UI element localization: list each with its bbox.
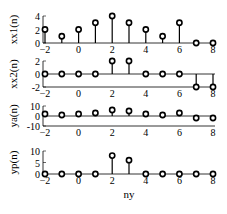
stem-marker [59,112,64,117]
stem-marker [143,71,148,76]
subplot-3: -10010−202468ya(n) [7,101,216,138]
stem-marker [110,58,115,63]
stem-marker [59,171,64,176]
stem-marker [126,158,131,163]
x-tick-label: 0 [76,88,81,99]
y-tick-label: 4 [35,11,40,22]
stem-marker [210,115,215,120]
x-tick-label: 0 [76,44,81,55]
stem-marker [93,110,98,115]
stem-marker [210,84,215,89]
x-tick-label: 6 [177,88,182,99]
stem-marker [194,115,199,120]
x-tick-label: −2 [40,127,51,138]
stem-marker [177,20,182,25]
subplot-2: -202−202468xx2(n) [7,56,216,99]
y-axis-label: xx1(n) [7,15,20,45]
x-tick-label: 2 [110,44,115,55]
stem-marker [160,112,165,117]
y-tick-label: 5 [35,158,40,169]
stem-marker [110,13,115,18]
x-tick-label: 2 [110,175,115,186]
y-tick-label: 2 [35,25,40,36]
stem-marker [210,40,215,45]
y-axis-label: yp(n) [7,150,20,174]
x-tick-label: 2 [110,88,115,99]
y-tick-label: 0 [35,69,40,80]
stem-marker [59,71,64,76]
stem-marker [126,58,131,63]
x-tick-label: 6 [177,127,182,138]
x-tick-label: −2 [40,44,51,55]
stem-marker [160,34,165,39]
stem-marker [93,71,98,76]
x-tick-label: 4 [143,88,148,99]
stem-marker [177,71,182,76]
x-tick-label: 8 [211,127,216,138]
stem-marker [177,171,182,176]
subplot-1: 024−202468xx1(n) [7,11,216,55]
stem-marker [126,20,131,25]
stem-marker [143,171,148,176]
stem-marker [194,84,199,89]
stem-marker [177,110,182,115]
y-tick-label: 10 [30,146,40,157]
stem-marker [76,27,81,32]
y-axis-label: ya(n) [7,104,20,128]
stem-marker [110,107,115,112]
stem-marker [210,171,215,176]
x-tick-label: 4 [143,44,148,55]
stem-marker [42,171,47,176]
stem-marker [126,108,131,113]
stem-marker [93,20,98,25]
stem-marker [59,34,64,39]
stem-marker [110,153,115,158]
stem-marker [160,71,165,76]
stem-marker [194,40,199,45]
stem-marker [194,171,199,176]
x-tick-label: 6 [177,44,182,55]
x-axis-label: ny [124,188,136,200]
stem-marker [93,171,98,176]
x-tick-label: 0 [76,127,81,138]
stem-marker [143,111,148,116]
y-tick-label: 0 [35,111,40,122]
stem-marker [76,71,81,76]
stem-marker [42,71,47,76]
y-tick-label: 10 [30,101,40,112]
x-tick-label: 4 [143,127,148,138]
stem-marker [42,111,47,116]
stem-marker [143,27,148,32]
stem-marker [42,27,47,32]
x-tick-label: 2 [110,127,115,138]
y-axis-label: xx2(n) [7,59,20,89]
x-tick-label: −2 [40,88,51,99]
stem-marker [76,171,81,176]
subplot-4: 0510−202468yp(n)ny [7,146,216,200]
stem-marker [160,171,165,176]
stem-plot-figure: 024−202468xx1(n)-202−202468xx2(n)-10010−… [0,0,227,214]
y-tick-label: -10 [27,121,40,132]
y-tick-label: 2 [35,56,40,67]
stem-marker [76,111,81,116]
